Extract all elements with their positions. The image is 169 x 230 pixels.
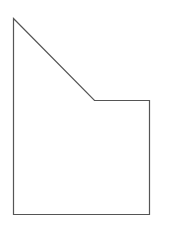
pentagon-shape bbox=[14, 19, 150, 215]
diagram-canvas bbox=[0, 0, 169, 230]
